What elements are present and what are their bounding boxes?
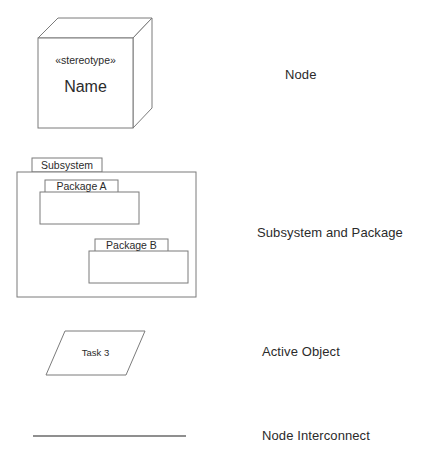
- subsystem-tab-label: Subsystem: [41, 159, 93, 171]
- package-b-tab-label: Package B: [106, 239, 157, 251]
- node-right-face: [133, 18, 152, 128]
- package-a-tab-label: Package A: [56, 180, 106, 192]
- legend-label-node: Node: [285, 68, 316, 81]
- package-a-body: [40, 192, 139, 224]
- node-stereotype-text: «stereotype»: [55, 54, 116, 66]
- node-name-text: Name: [64, 78, 107, 95]
- package-b-body: [89, 251, 188, 283]
- legend-label-active-object: Active Object: [262, 345, 340, 358]
- legend-label-node-interconnect: Node Interconnect: [262, 429, 370, 442]
- node-top-face: [38, 18, 152, 38]
- legend-label-subsystem-and-package: Subsystem and Package: [257, 226, 403, 239]
- active-object-label: Task 3: [82, 347, 109, 358]
- diagram-canvas: «stereotype» Name Subsystem Package A Pa…: [0, 0, 439, 465]
- node-shape[interactable]: [38, 18, 152, 128]
